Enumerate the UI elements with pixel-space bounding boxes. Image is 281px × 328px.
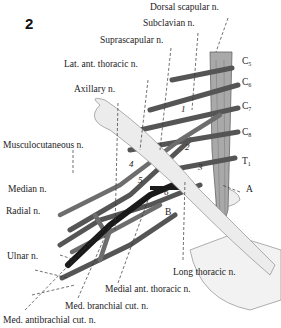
root-c7: C7 — [242, 102, 251, 112]
label-med-branchial-cut: Med. branchial cut. n. — [65, 302, 148, 312]
label-med-antibrachial-cut: Med. antibrachial cut. n. — [3, 316, 96, 326]
label-medial-ant-thoracic: Medial ant. thoracic n. — [105, 285, 191, 295]
label-long-thoracic: Long thoracic n. — [173, 268, 236, 278]
marker-a: A — [246, 185, 253, 195]
label-dorsal-scapular: Dorsal scapular n. — [150, 3, 219, 13]
root-c6: C6 — [242, 78, 251, 88]
root-c5: C5 — [242, 57, 251, 67]
number-6: 6 — [164, 187, 169, 197]
label-musculocutaneous: Musculocutaneous n. — [3, 141, 84, 151]
root-t1: T1 — [242, 157, 251, 167]
root-c8: C8 — [242, 128, 251, 138]
marker-b: B — [165, 208, 171, 218]
number-5: 5 — [138, 175, 143, 185]
label-median: Median n. — [8, 185, 47, 195]
label-suprascapular: Suprascapular n. — [100, 36, 163, 46]
number-4: 4 — [129, 159, 134, 169]
label-subclavian: Subclavian n. — [143, 19, 195, 29]
number-2: 2 — [185, 142, 190, 152]
label-axillary: Axillary n. — [74, 85, 115, 95]
label-lat-ant-thoracic: Lat. ant. thoracic n. — [64, 60, 138, 70]
number-3: 3 — [198, 162, 203, 172]
label-ulnar: Ulnar n. — [7, 252, 38, 262]
brachial-plexus-diagram: 2 Dorsal scapular n. Subclavian n. Supra… — [0, 0, 281, 328]
figure-number: 2 — [25, 15, 33, 32]
label-radial: Radial n. — [6, 207, 40, 217]
anatomy-illustration — [0, 0, 281, 328]
number-1: 1 — [181, 104, 186, 114]
